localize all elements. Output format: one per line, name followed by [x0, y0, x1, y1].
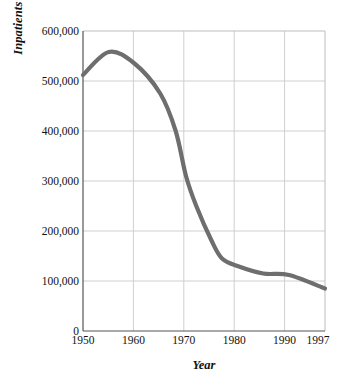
x-axis-title: Year — [83, 358, 325, 373]
x-tick-label: 1990 — [273, 334, 296, 346]
data-series-line — [83, 52, 325, 289]
x-tick-label: 1997 — [307, 334, 330, 346]
plot-area — [0, 0, 349, 387]
x-tick-label: 1970 — [172, 334, 195, 346]
x-tick-label: 1950 — [72, 334, 95, 346]
line-chart: Inpatients in Public Mental Hospitals 60… — [0, 0, 349, 387]
horizontal-gridlines — [83, 81, 325, 281]
x-tick-label: 1980 — [223, 334, 246, 346]
x-tick-label: 1960 — [122, 334, 145, 346]
